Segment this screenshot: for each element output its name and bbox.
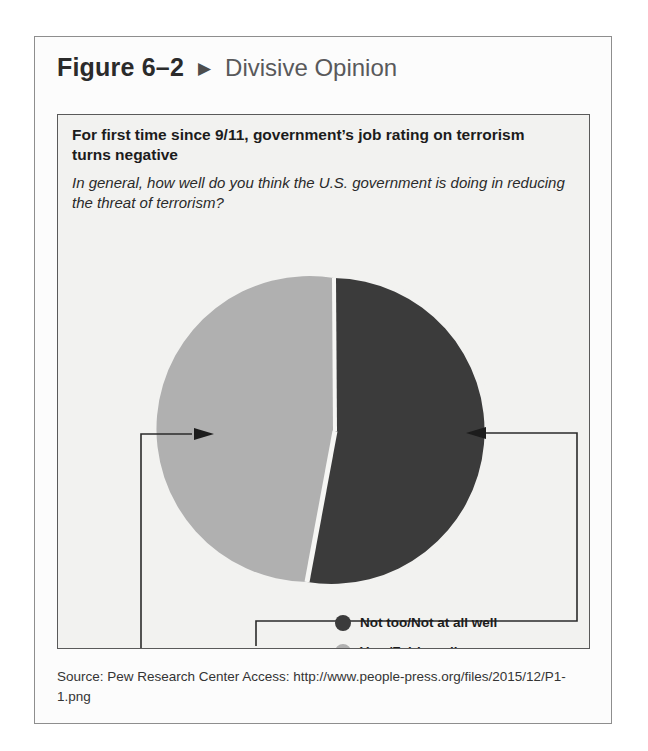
chart-panel: For first time since 9/11, government’s … bbox=[57, 114, 590, 649]
pie-chart-svg bbox=[58, 115, 590, 649]
figure-frame: Figure 6–2 ▶ Divisive Opinion For first … bbox=[34, 36, 612, 724]
legend-label-very-fairly-well: Very/Fairly well bbox=[360, 644, 458, 649]
pie-divider-top bbox=[334, 278, 335, 431]
figure-title-row: Figure 6–2 ▶ Divisive Opinion bbox=[57, 53, 397, 82]
legend-swatch-light-icon bbox=[335, 644, 351, 650]
figure-number: Figure 6–2 bbox=[57, 53, 184, 82]
figure-title: Divisive Opinion bbox=[225, 54, 397, 82]
legend-item-not-too-not-at-all-well[interactable]: Not too/Not at all well bbox=[335, 608, 585, 637]
legend-label-not-too-not-at-all-well: Not too/Not at all well bbox=[360, 615, 497, 630]
pie-slice-very-fairly-well bbox=[156, 276, 335, 582]
pie-chart bbox=[58, 115, 590, 649]
legend-swatch-dark-icon bbox=[335, 615, 351, 631]
source-note: Source: Pew Research Center Access: http… bbox=[57, 667, 593, 706]
chart-legend: Not too/Not at all well Very/Fairly well bbox=[335, 608, 585, 649]
triangle-right-icon: ▶ bbox=[198, 60, 211, 77]
legend-item-very-fairly-well[interactable]: Very/Fairly well bbox=[335, 637, 585, 649]
